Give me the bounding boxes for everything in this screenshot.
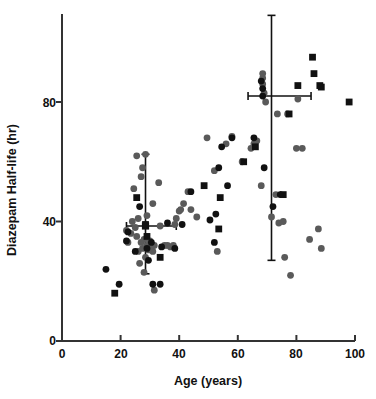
x-tick-label-60: 60 [231,348,244,360]
data-point-square [157,254,164,261]
data-point-circle [318,245,325,252]
data-point-circle [306,236,313,243]
data-point-circle [251,134,258,141]
data-point-circle [211,239,218,246]
x-tick-label-40: 40 [172,348,185,360]
x-axis-title: Age (years) [174,375,242,388]
data-point-circle [125,229,132,236]
data-point-circle [136,260,143,267]
data-point-square [240,158,247,165]
data-point-circle [132,248,139,255]
data-point-circle [130,185,137,192]
data-point-circle [171,245,178,252]
data-point-circle [136,203,143,210]
data-point-circle [193,214,200,221]
data-point-circle [138,173,145,180]
data-point-circle [268,214,275,221]
data-point-square [133,194,140,201]
data-point-square [142,221,149,228]
data-point-circle [188,206,195,213]
scatter-plot-figure: 0 20 40 60 80 100 0 40 80 Age (years) Di… [0,0,376,399]
data-point-circle [229,134,236,141]
data-point-square [318,84,325,91]
data-point-circle [149,200,156,207]
data-point-circle [132,224,139,231]
data-point-circle [133,233,140,240]
data-point-circle [212,211,219,218]
data-point-circle [158,243,165,250]
y-tick-label-40: 40 [34,216,56,228]
data-point-square [252,143,259,150]
data-point-circle [179,221,186,228]
data-point-square [309,54,316,61]
x-tick-label-100: 100 [345,348,365,360]
data-point-circle [151,287,158,294]
series-gray-circles [123,70,325,293]
data-point-circle [280,218,287,225]
data-point-square [294,82,301,89]
data-point-circle [259,85,266,92]
plot-canvas [0,0,376,399]
data-point-circle [139,164,146,171]
data-point-circle [103,266,110,273]
data-point-circle [287,272,294,279]
data-point-square [201,182,208,189]
data-point-circle [157,281,164,288]
data-point-circle [259,93,266,100]
data-point-circle [224,182,231,189]
data-point-circle [315,226,322,233]
y-tick-label-80: 80 [34,97,56,109]
data-point-circle [144,245,151,252]
data-point-circle [133,152,140,159]
data-point-circle [173,215,180,222]
axis-lines [62,14,355,341]
data-point-circle [142,151,149,158]
data-point-circle [144,212,151,219]
data-point-circle [215,164,222,171]
x-tick-label-80: 80 [289,348,302,360]
data-point-circle [171,221,178,228]
data-point-circle [281,254,288,261]
data-point-circle [157,223,164,230]
data-point-circle [164,220,171,227]
data-point-circle [259,70,266,77]
data-point-circle [270,203,277,210]
data-point-circle [274,111,281,118]
data-point-circle [135,215,142,222]
error-bars-layer [126,15,311,273]
data-point-circle [149,248,156,255]
data-point-circle [204,134,211,141]
data-point-circle [293,145,300,152]
data-point-circle [258,182,265,189]
data-point-circle [294,96,301,103]
data-point-circle [129,218,136,225]
data-point-square [280,191,287,198]
data-point-circle [177,206,184,213]
data-point-square [215,226,222,233]
series-black-circles [103,78,284,288]
data-point-square [346,99,353,106]
data-point-circle [116,281,123,288]
data-point-circle [262,99,269,106]
data-point-circle [214,248,221,255]
data-point-circle [145,257,152,264]
data-point-circle [258,78,265,85]
data-point-circle [188,188,195,195]
data-point-circle [299,145,306,152]
data-point-circle [155,179,162,186]
x-tick-label-0: 0 [59,348,66,360]
data-point-circle [218,143,225,150]
data-point-circle [180,200,187,207]
data-point-circle [207,217,214,224]
data-point-square [144,233,151,240]
data-point-square [311,70,318,77]
data-point-square [286,111,293,118]
data-point-circle [148,239,155,246]
data-points-layer [103,54,353,297]
data-point-circle [123,238,130,245]
y-tick-label-0: 0 [44,335,56,347]
data-point-circle [261,164,268,171]
data-point-circle [149,281,156,288]
data-point-square [217,194,224,201]
data-point-circle [141,269,148,276]
